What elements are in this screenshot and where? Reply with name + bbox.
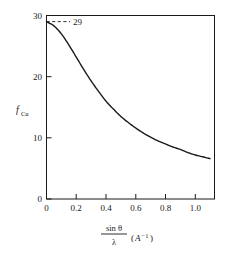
x-axis-unit-close: ) xyxy=(150,233,153,243)
x-axis-unit-exponent: −1 xyxy=(142,232,149,239)
annotation-label-29: 29 xyxy=(73,17,83,27)
x-tick-label-0p8: 0.8 xyxy=(160,203,172,213)
x-axis-unit-symbol: A xyxy=(134,233,141,243)
x-tick-label-0p4: 0.4 xyxy=(100,203,112,213)
x-tick-label-1p0: 1.0 xyxy=(190,203,202,213)
x-axis-title: sin θ λ ( A −1 ) xyxy=(101,223,153,247)
y-tick-label-30: 30 xyxy=(33,11,43,21)
x-axis-title-numerator: sin θ xyxy=(106,223,122,233)
y-tick-label-20: 20 xyxy=(33,72,43,82)
y-axis-title-subscript: Cu xyxy=(21,110,29,117)
y-tick-label-0: 0 xyxy=(38,194,43,204)
scattering-factor-chart: 0 10 20 30 0 0.2 0.4 0.6 0.8 1.0 29 f xyxy=(0,0,232,255)
x-tick-label-0p2: 0.2 xyxy=(71,203,82,213)
y-axis-title: f Cu xyxy=(16,104,29,117)
x-axis-title-denominator: λ xyxy=(112,237,117,247)
x-axis-ticks xyxy=(47,194,196,199)
y-axis-title-symbol: f xyxy=(16,104,20,115)
axes-box xyxy=(47,16,215,200)
plot-frame xyxy=(47,16,215,200)
x-tick-label-0p6: 0.6 xyxy=(130,203,142,213)
data-curve-f-cu xyxy=(47,22,211,159)
y-tick-label-10: 10 xyxy=(33,133,43,143)
x-tick-label-0: 0 xyxy=(44,203,49,213)
figure-container: 0 10 20 30 0 0.2 0.4 0.6 0.8 1.0 29 f xyxy=(0,0,232,255)
y-axis-ticks xyxy=(47,16,52,200)
x-axis-unit-open: ( xyxy=(131,233,134,243)
